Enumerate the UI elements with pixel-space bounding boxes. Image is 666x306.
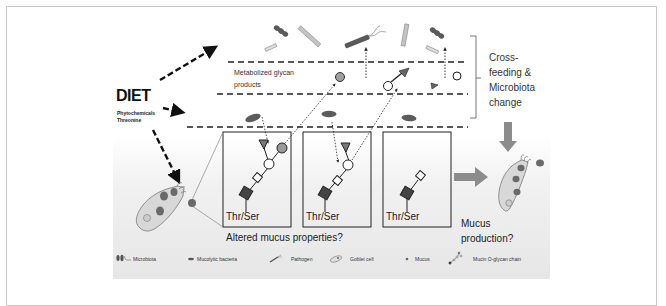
legend-icons <box>116 252 462 264</box>
lumen-microbiota <box>265 24 445 54</box>
cross-feeding-label-line4: change <box>489 95 522 110</box>
metabolized-glycan-label-line1: Metabolized glycan <box>234 69 294 76</box>
diet-item-threonine: Threonine <box>117 117 141 123</box>
mucus-production-line1: Mucus <box>461 216 490 231</box>
legend-label-goblet-cell: Goblet cell <box>350 256 374 262</box>
glycan-triangle <box>431 83 438 89</box>
diet-arrow-to-lumen <box>160 48 214 80</box>
box1-thr-ser-label: Thr/Ser <box>226 211 259 222</box>
mucolytic-bacteria-icon <box>188 258 194 260</box>
pathogen-icon <box>344 26 386 49</box>
zoom-lines <box>192 132 223 227</box>
cross-feeding-label-line1: Cross- <box>489 50 518 65</box>
mucus-production-arrow <box>454 167 488 187</box>
glycan-white-circle <box>384 82 393 91</box>
microbiota-rod-icon <box>426 46 439 54</box>
microbiota-change-down-arrow <box>499 122 517 152</box>
legend-label-mucolytic-bacteria: Mucolytic bacteria <box>197 256 237 262</box>
mucin-o-glycan-chain-full <box>239 140 287 212</box>
legend-label-pathogen: Pathogen <box>291 256 312 262</box>
microbiota-icon <box>116 255 131 262</box>
microbiota-rod-icon <box>265 44 277 52</box>
diet-arrows <box>153 48 214 180</box>
goblet-cell-left <box>136 182 196 231</box>
legend-label-mucin-o-glycan-chain: Mucin O-glycan chain <box>473 256 521 262</box>
cross-feeding-label-line2: feeding & <box>489 65 531 80</box>
mucin-o-glycan-chain-minimal <box>400 171 425 212</box>
microbiota-rod-icon <box>298 26 321 47</box>
mucus-layer-lines <box>187 62 468 127</box>
altered-mucus-question: Altered mucus properties? <box>226 232 343 243</box>
diet-arrow-to-mucus <box>163 108 181 112</box>
glycan-grey-circle <box>336 73 345 82</box>
mucus-production-line2: production? <box>461 231 513 246</box>
diet-arrow-to-goblet-cell <box>153 130 178 180</box>
goblet-cell-right <box>499 155 544 211</box>
pathogen-icon <box>270 255 282 262</box>
metabolized-glycan-label-line2: products <box>234 81 261 88</box>
diet-title: DIET <box>116 87 150 105</box>
goblet-cell-icon <box>329 255 342 264</box>
cross-feeding-bracket <box>470 36 481 118</box>
mucin-o-glycan-chain-icon <box>449 252 462 264</box>
cross-feeding-label-line3: Microbiota <box>489 80 535 95</box>
mucin-o-glycan-chain-partial <box>318 143 353 212</box>
glycan-triangle <box>399 68 409 77</box>
mucolytic-bacteria <box>244 111 416 124</box>
microbiota-chain-icon <box>429 26 445 40</box>
mucus-icon <box>406 258 409 261</box>
box2-thr-ser-label: Thr/Ser <box>306 211 339 222</box>
box3-thr-ser-label: Thr/Ser <box>386 211 419 222</box>
microbiota-rod-icon <box>401 24 409 46</box>
diet-item-phytochemicals: Phytochemicals <box>117 110 155 116</box>
legend-label-mucus: Mucus <box>415 256 430 262</box>
microbiota-chain-icon <box>273 24 289 38</box>
legend-label-microbiota: Microbiota <box>133 256 156 262</box>
glycan-white-circle <box>453 72 461 80</box>
metabolized-glycan-products <box>336 68 462 91</box>
mucus-droplet <box>536 160 544 167</box>
mucus-droplet <box>188 199 196 207</box>
